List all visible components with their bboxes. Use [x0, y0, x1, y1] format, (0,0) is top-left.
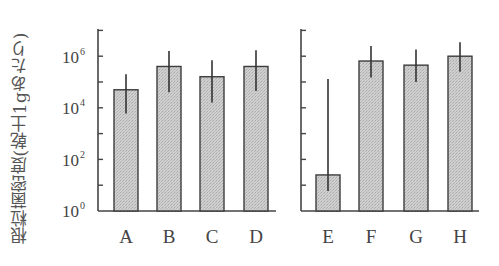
- right-panel: [301, 29, 479, 211]
- bar-f: [359, 61, 383, 211]
- x-label-b: B: [154, 226, 184, 248]
- x-label-a: A: [111, 226, 141, 248]
- bar-g: [404, 65, 428, 211]
- bar-h: [448, 56, 472, 211]
- x-label-e: E: [313, 226, 343, 248]
- y-tick-label-1e0: 100: [62, 200, 85, 222]
- x-label-f: F: [356, 226, 386, 248]
- x-label-h: H: [445, 226, 475, 248]
- y-tick-label-1e4: 104: [62, 97, 85, 119]
- x-label-g: G: [401, 226, 431, 248]
- y-axis-label: 根粒菌密度(乾土1gあたり): [7, 28, 31, 248]
- y-tick-label-1e6: 106: [62, 46, 85, 68]
- x-label-c: C: [197, 226, 227, 248]
- x-label-d: D: [241, 226, 271, 248]
- y-tick-label-1e2: 102: [62, 149, 85, 171]
- left-panel: [98, 29, 276, 211]
